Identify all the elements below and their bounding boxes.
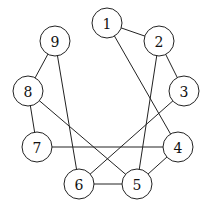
node-label: 4 bbox=[174, 140, 183, 156]
node-label: 5 bbox=[133, 177, 142, 193]
edge-6-9 bbox=[55, 41, 79, 184]
edge-2-5 bbox=[137, 41, 159, 184]
graph-diagram: 123456789 bbox=[0, 0, 205, 207]
node-4: 4 bbox=[163, 132, 193, 162]
node-9: 9 bbox=[40, 26, 70, 56]
node-label: 8 bbox=[24, 84, 33, 100]
nodes-layer: 123456789 bbox=[13, 8, 199, 199]
node-label: 1 bbox=[103, 16, 112, 32]
node-label: 3 bbox=[180, 84, 189, 100]
node-label: 7 bbox=[33, 140, 42, 156]
node-label: 6 bbox=[75, 177, 84, 193]
node-5: 5 bbox=[122, 169, 152, 199]
node-label: 2 bbox=[155, 34, 164, 50]
node-2: 2 bbox=[144, 26, 174, 56]
node-3: 3 bbox=[169, 76, 199, 106]
node-7: 7 bbox=[22, 132, 52, 162]
node-1: 1 bbox=[92, 8, 122, 38]
node-label: 9 bbox=[51, 34, 60, 50]
node-8: 8 bbox=[13, 76, 43, 106]
node-6: 6 bbox=[64, 169, 94, 199]
